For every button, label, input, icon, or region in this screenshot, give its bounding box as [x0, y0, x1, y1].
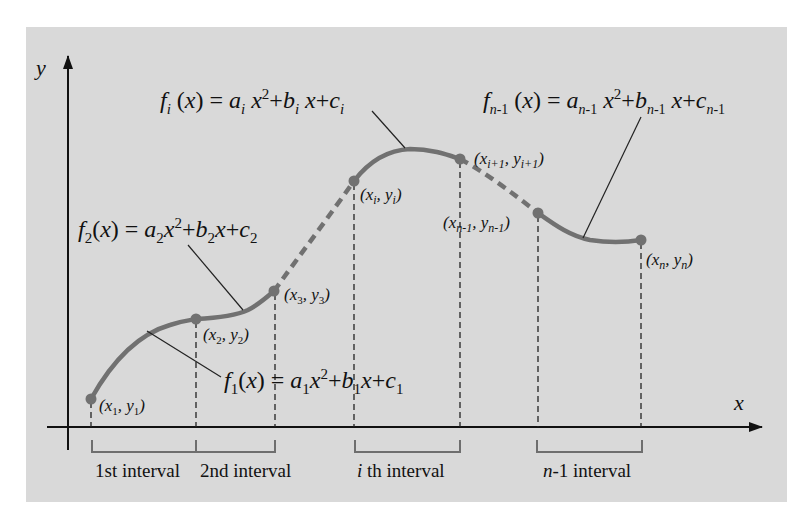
spline-diagram: y x (x1, y1) (x2, y2) (x3, y3) (xi, yi) … [0, 0, 809, 519]
interval-label-n-1: n-1 interval [543, 460, 631, 481]
point-i-plus-1 [455, 154, 466, 165]
y-axis-label: y [34, 55, 46, 80]
interval-label-2nd: 2nd interval [200, 460, 291, 481]
point-n-minus-1 [533, 208, 544, 219]
point-label-2: (x2, y2) [203, 325, 249, 346]
equation-fi: fi (x) = ai x2+bi x+ci [160, 86, 344, 117]
point-label-1: (x1, y1) [99, 396, 145, 417]
point-2 [191, 314, 202, 325]
equation-f1: f1(x) = a1x2+b1x+c1 [224, 366, 403, 397]
point-i [349, 176, 360, 187]
point-label-3: (x3, y3) [284, 285, 330, 306]
equation-fn-1: fn-1 (x) = an-1 x2+bn-1 x+cn-1 [483, 86, 725, 117]
equation-f2: f2(x) = a2x2+b2x+c2 [78, 215, 257, 246]
x-axis-label: x [733, 390, 744, 415]
point-label-i: (xi, yi) [360, 185, 402, 207]
interval-label-1st: 1st interval [95, 460, 180, 481]
interval-label-ith: i th interval [357, 460, 445, 481]
point-n [636, 235, 647, 246]
point-3 [269, 286, 280, 297]
point-1 [86, 394, 97, 405]
